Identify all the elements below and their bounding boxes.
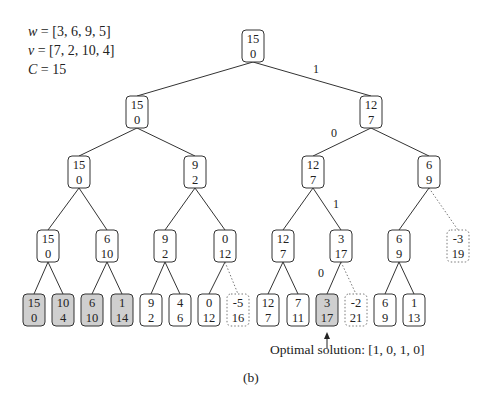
tree-node: 012: [214, 230, 236, 262]
leaf-node-shaded: 104: [52, 294, 74, 326]
tree-node: 92: [154, 230, 176, 262]
node-remaining-capacity: -2: [351, 296, 361, 310]
tree-node: 150: [37, 230, 59, 262]
node-remaining-capacity: 9: [162, 232, 168, 246]
tree-edge: [137, 62, 253, 96]
tree-edge: [195, 188, 225, 230]
node-remaining-capacity: 12: [262, 296, 275, 310]
node-total-value: 9: [382, 311, 388, 325]
node-total-value: 7: [310, 173, 316, 187]
node-total-value: 21: [350, 311, 363, 325]
node-remaining-capacity: 6: [104, 232, 110, 246]
tree-node: 46: [169, 294, 191, 326]
tree-edge: [283, 188, 313, 230]
leaf-node-shaded: 610: [81, 294, 103, 326]
tree-edge: [253, 62, 371, 96]
node-total-value: 0: [250, 47, 256, 61]
tree-node: 150: [126, 96, 148, 128]
node-total-value: 7: [280, 247, 286, 261]
edge-decision-label: 0: [318, 266, 324, 280]
node-remaining-capacity: 15: [28, 296, 41, 310]
tree-node: 127: [257, 294, 279, 326]
node-remaining-capacity: 15: [131, 98, 144, 112]
node-total-value: 10: [101, 247, 114, 261]
edge-decision-label: 1: [333, 197, 339, 211]
node-remaining-capacity: 0: [222, 232, 228, 246]
node-total-value: 13: [408, 311, 421, 325]
node-remaining-capacity: 6: [426, 158, 432, 172]
edge-decision-label: 0: [331, 126, 337, 140]
pruned-edge: [341, 262, 356, 294]
node-remaining-capacity: -3: [453, 232, 463, 246]
tree-node: 69: [374, 294, 396, 326]
tree-node: 92: [140, 294, 162, 326]
figure-caption: (b): [243, 370, 259, 386]
tree-edge: [313, 128, 371, 156]
node-total-value: 0: [31, 311, 37, 325]
tree-edge: [48, 188, 79, 230]
node-remaining-capacity: 0: [206, 296, 212, 310]
tree-edge: [151, 262, 165, 294]
tree-edge: [209, 262, 225, 294]
node-total-value: 0: [45, 247, 51, 261]
node-total-value: 6: [177, 311, 183, 325]
tree-edge: [79, 128, 137, 156]
tree-edge: [107, 262, 122, 294]
node-total-value: 10: [86, 311, 99, 325]
optimal-solution-label: Optimal solution: [1, 0, 1, 0]: [270, 342, 425, 358]
node-total-value: 9: [426, 173, 432, 187]
node-total-value: 0: [76, 173, 82, 187]
node-remaining-capacity: 3: [338, 232, 344, 246]
tree-node: 127: [302, 156, 324, 188]
tree-node: 127: [272, 230, 294, 262]
node-remaining-capacity: 6: [382, 296, 388, 310]
tree-node: 127: [360, 96, 382, 128]
node-total-value: 2: [192, 173, 198, 187]
node-remaining-capacity: 15: [42, 232, 55, 246]
node-total-value: 9: [396, 247, 402, 261]
tree-node: 012: [198, 294, 220, 326]
weights-line: w = [3, 6, 9, 5]: [28, 22, 114, 41]
node-remaining-capacity: -5: [233, 296, 243, 310]
capacity-line: C = 15: [28, 60, 114, 79]
tree-edge: [92, 262, 107, 294]
pruned-edge: [225, 262, 238, 294]
node-remaining-capacity: 4: [177, 296, 184, 310]
tree-node: 69: [418, 156, 440, 188]
arrow-head-icon: [324, 332, 330, 339]
tree-node: 317: [330, 230, 352, 262]
tree-edge: [399, 262, 414, 294]
node-remaining-capacity: 15: [247, 32, 260, 46]
node-remaining-capacity: 7: [295, 296, 301, 310]
leaf-node-shaded: 317: [316, 294, 338, 326]
infeasible-node: -319: [447, 230, 469, 262]
node-remaining-capacity: 15: [73, 158, 86, 172]
node-remaining-capacity: 6: [89, 296, 95, 310]
tree-edge: [34, 262, 48, 294]
infeasible-node: -221: [345, 294, 367, 326]
node-total-value: 16: [232, 311, 245, 325]
node-remaining-capacity: 1: [119, 296, 125, 310]
node-total-value: 17: [335, 247, 348, 261]
tree-edge: [165, 188, 195, 230]
tree-edge: [371, 128, 429, 156]
tree-edge: [399, 188, 429, 230]
node-remaining-capacity: 9: [192, 158, 198, 172]
node-total-value: 7: [368, 113, 374, 127]
node-remaining-capacity: 9: [148, 296, 154, 310]
node-total-value: 12: [203, 311, 216, 325]
tree-edge: [79, 188, 107, 230]
tree-node: 150: [68, 156, 90, 188]
node-total-value: 4: [60, 311, 67, 325]
edge-decision-label: 1: [313, 62, 319, 76]
tree-edge: [48, 262, 63, 294]
node-total-value: 14: [116, 311, 129, 325]
leaf-node-shaded: 150: [23, 294, 45, 326]
tree-edge: [283, 262, 298, 294]
tree-edge: [165, 262, 180, 294]
node-remaining-capacity: 12: [307, 158, 320, 172]
problem-parameters: w = [3, 6, 9, 5] v = [7, 2, 10, 4] C = 1…: [28, 22, 114, 79]
tree-node: 69: [388, 230, 410, 262]
tree-node: 610: [96, 230, 118, 262]
node-total-value: 11: [292, 311, 304, 325]
